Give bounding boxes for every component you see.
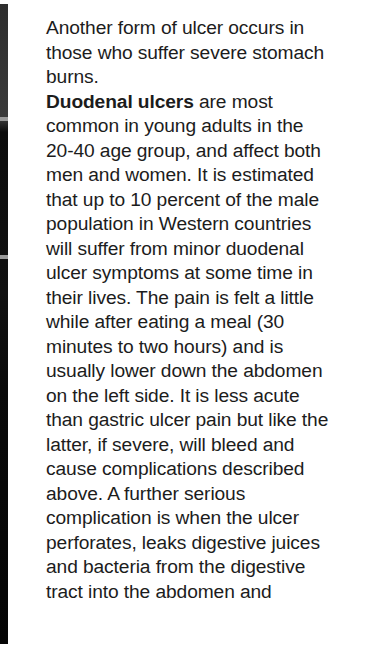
text-line: perforates, leaks digestive juices — [46, 531, 368, 556]
text-line: men and women. It is estimated — [46, 163, 368, 188]
text-line: tract into the abdomen and — [46, 580, 368, 605]
text-line: those who suffer severe stomach — [46, 41, 368, 66]
text-line: minutes to two hours) and is — [46, 335, 368, 360]
text-line: that up to 10 percent of the male — [46, 188, 368, 213]
text-fragment: are most — [194, 91, 273, 112]
text-line: population in Western countries — [46, 212, 368, 237]
text-line: cause complications described — [46, 457, 368, 482]
text-line: common in young adults in the — [46, 114, 368, 139]
text-line: ulcer symptoms at some time in — [46, 261, 368, 286]
text-line: Another form of ulcer occurs in — [46, 16, 368, 41]
text-line: on the left side. It is less acute — [46, 384, 368, 409]
paragraph-ulcer-burns: Another form of ulcer occurs in those wh… — [46, 16, 368, 90]
document-page: Another form of ulcer occurs in those wh… — [46, 16, 368, 604]
text-line: burns. — [46, 65, 368, 90]
term-duodenal-ulcers: Duodenal ulcers — [46, 91, 194, 112]
text-line: and bacteria from the digestive — [46, 555, 368, 580]
text-line: will suffer from minor duodenal — [46, 237, 368, 262]
text-line: than gastric ulcer pain but like the — [46, 408, 368, 433]
edge-band — [0, 255, 8, 259]
text-line: while after eating a meal (30 — [46, 310, 368, 335]
edge-band — [0, 117, 8, 121]
text-line: 20-40 age group, and affect both — [46, 139, 368, 164]
text-line: usually lower down the abdomen — [46, 359, 368, 384]
page-edge-strip — [0, 4, 8, 644]
text-line: complication is when the ulcer — [46, 506, 368, 531]
text-line: Duodenal ulcers are most — [46, 90, 368, 115]
text-line: their lives. The pain is felt a little — [46, 286, 368, 311]
text-line: latter, if severe, will bleed and — [46, 433, 368, 458]
paragraph-duodenal-ulcers: Duodenal ulcers are most common in young… — [46, 90, 368, 605]
text-line: above. A further serious — [46, 482, 368, 507]
